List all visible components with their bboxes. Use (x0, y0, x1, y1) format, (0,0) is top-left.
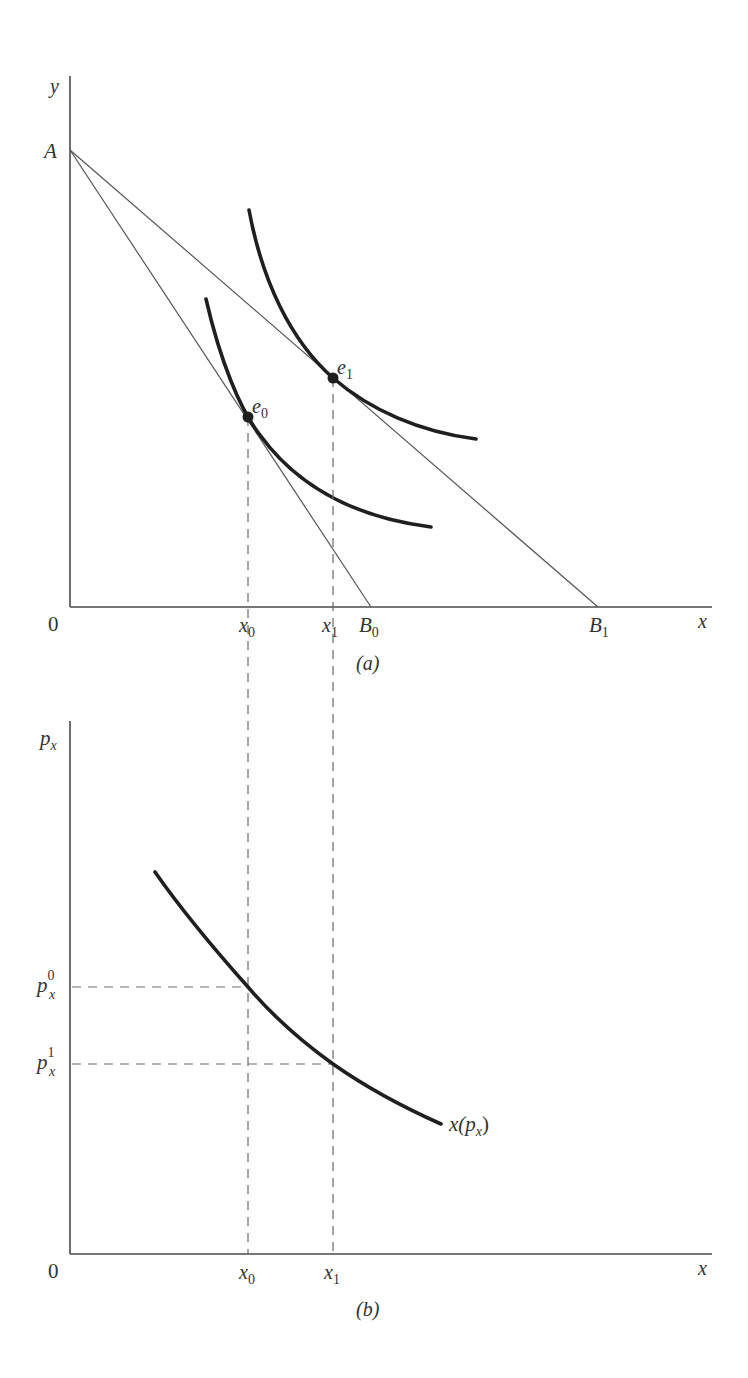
y-axis-label: y (48, 75, 59, 98)
panel-b: px p0 x p1 x x(px) 0 x0 x1 x (b) (35, 721, 712, 1321)
x-axis-label-b: x (697, 1257, 707, 1279)
px0-tick-sub: x (48, 987, 56, 1002)
x0-tick-label-b: x0 (238, 1261, 255, 1287)
b1-label: B1 (589, 613, 609, 640)
panel-a: y A 0 e0 e1 x0 x1 B0 B1 x (a) (42, 75, 712, 1254)
price-axis-label: px (38, 726, 58, 753)
x1-tick-label-a: x1 (321, 614, 338, 640)
e0-label: e0 (252, 395, 268, 421)
e1-label: e1 (337, 356, 353, 382)
x-axis-label-a: x (697, 610, 707, 632)
origin-label-b: 0 (48, 1259, 59, 1283)
px1-tick-sub: x (48, 1064, 56, 1079)
x1-tick-label-b: x1 (323, 1261, 340, 1287)
price-change-demand-diagram: y A 0 e0 e1 x0 x1 B0 B1 x (a) px p0 x p1… (0, 0, 748, 1378)
budget-line-b0 (70, 150, 371, 607)
demand-curve-label: x(px) (448, 1112, 489, 1139)
panel-b-caption: (b) (356, 1298, 380, 1321)
indifference-curve-0 (206, 299, 431, 527)
b0-label: B0 (359, 613, 379, 640)
indifference-curve-1 (249, 210, 476, 439)
intercept-label-a: A (42, 139, 57, 163)
demand-curve (155, 872, 441, 1124)
x0-tick-label-a: x0 (238, 614, 255, 640)
origin-label: 0 (48, 612, 59, 636)
panel-a-caption: (a) (356, 652, 380, 675)
